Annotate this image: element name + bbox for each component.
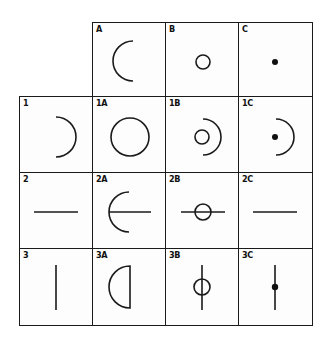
small-circle-icon	[166, 23, 241, 99]
left-arc-with-line-icon	[93, 173, 168, 251]
circle-on-horizontal-line-icon	[166, 173, 241, 251]
dot-icon	[239, 23, 314, 99]
half-disc-outline-icon	[93, 249, 168, 327]
cell-2c: 2C	[238, 172, 313, 250]
left-arc-icon	[93, 23, 168, 99]
circle-on-vertical-line-icon	[166, 249, 241, 327]
header-cell-2: 2	[19, 172, 94, 250]
cell-1a: 1A	[92, 96, 167, 174]
circle-with-right-arc-icon	[166, 97, 241, 175]
combination-grid: A B C 1 1A 1B 1C	[0, 0, 329, 346]
header-cell-a: A	[92, 22, 167, 98]
cell-1c: 1C	[238, 96, 313, 174]
cell-3b: 3B	[165, 248, 240, 326]
dot-on-vertical-line-icon	[239, 249, 314, 327]
cell-1b: 1B	[165, 96, 240, 174]
cell-3c: 3C	[238, 248, 313, 326]
dot-with-right-arc-icon	[239, 97, 314, 175]
cell-2a: 2A	[92, 172, 167, 250]
vertical-line-icon	[20, 249, 95, 327]
horizontal-line-icon	[239, 173, 314, 251]
cell-3a: 3A	[92, 248, 167, 326]
right-arc-icon	[20, 97, 95, 175]
header-cell-b: B	[165, 22, 240, 98]
full-circle-icon	[93, 97, 168, 175]
header-cell-c: C	[238, 22, 313, 98]
header-cell-3: 3	[19, 248, 94, 326]
cell-2b: 2B	[165, 172, 240, 250]
horizontal-line-icon	[20, 173, 95, 251]
header-cell-1: 1	[19, 96, 94, 174]
